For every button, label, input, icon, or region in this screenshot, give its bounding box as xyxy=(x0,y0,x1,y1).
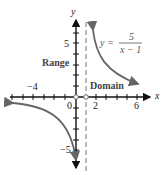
open-point-origin xyxy=(74,95,79,100)
x-tick-label-2: 2 xyxy=(93,100,98,111)
equation-numerator: 5 xyxy=(129,31,134,42)
equation-prefix: y = xyxy=(99,37,114,48)
x-axis xyxy=(10,94,150,100)
x-tick-label-neg4: −4 xyxy=(27,81,38,92)
y-axis-label: y xyxy=(70,6,76,17)
equation-denominator: x − 1 xyxy=(119,44,141,55)
function-equation: y = 5 x − 1 xyxy=(99,31,142,55)
y-tick-label-neg5: −5 xyxy=(60,144,71,155)
y-tick-label-5: 5 xyxy=(64,38,69,49)
graph-canvas: y x 5 −5 −4 0 2 6 Range Domain y = 5 x −… xyxy=(0,0,163,175)
domain-label: Domain xyxy=(90,80,124,91)
range-label: Range xyxy=(42,57,70,68)
x-tick-label-0: 0 xyxy=(67,100,72,111)
x-axis-label: x xyxy=(154,90,160,101)
x-tick-label-6: 6 xyxy=(134,100,139,111)
open-point-x1 xyxy=(84,95,89,100)
